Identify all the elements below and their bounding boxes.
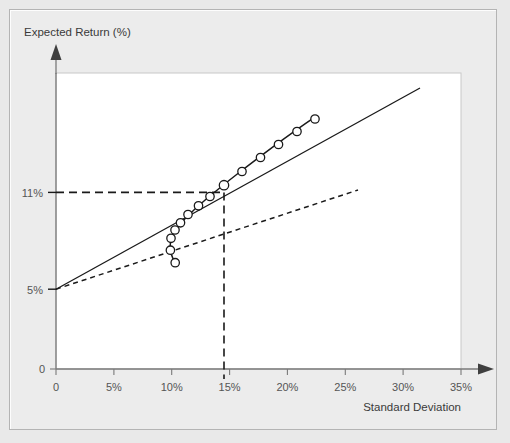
y-axis-arrow-icon (51, 44, 62, 60)
frontier-marker (311, 115, 319, 123)
y-axis-tick-labels: 0 5% 11% (22, 187, 45, 376)
frontier-marker (293, 127, 301, 135)
x-axis-arrow-icon (478, 364, 494, 375)
y-tick-label-5: 5% (27, 284, 43, 296)
y-axis-title: Expected Return (%) (24, 26, 131, 38)
frontier-marker (184, 210, 192, 218)
frontier-marker (274, 140, 282, 148)
x-axis-ticks (56, 369, 461, 375)
frontier-marker (256, 153, 264, 161)
x-axis-tick-labels: 0 5% 10% 15% 20% 25% 30% 35% (53, 381, 472, 393)
frontier-marker (167, 234, 175, 242)
frontier-marker (166, 246, 174, 254)
x-tick-label-15: 15% (219, 381, 241, 393)
x-tick-label-25: 25% (334, 381, 356, 393)
x-tick-label-10: 10% (161, 381, 183, 393)
x-tick-label-35: 35% (450, 381, 472, 393)
frontier-marker (176, 219, 184, 227)
frontier-marker (171, 259, 179, 267)
frontier-marker (171, 226, 179, 234)
expected-return-vs-standard-deviation-chart: 0 5% 10% 15% 20% 25% 30% 35% 0 5% 11% (10, 10, 497, 430)
frontier-marker (238, 167, 246, 175)
x-tick-label-0: 0 (53, 381, 59, 393)
x-tick-label-5: 5% (106, 381, 122, 393)
y-tick-label-0: 0 (39, 363, 45, 375)
y-tick-label-11: 11% (22, 187, 43, 199)
y-axis-ticks (48, 192, 56, 369)
frontier-marker (206, 192, 214, 200)
x-axis-title: Standard Deviation (363, 401, 461, 413)
frontier-marker (194, 202, 202, 210)
chart-panel: 0 5% 10% 15% 20% 25% 30% 35% 0 5% 11% (9, 9, 497, 430)
x-tick-label-20: 20% (276, 381, 298, 393)
x-tick-label-30: 30% (392, 381, 414, 393)
frontier-tangency-marker (219, 181, 228, 190)
plot-area-background (56, 73, 461, 369)
